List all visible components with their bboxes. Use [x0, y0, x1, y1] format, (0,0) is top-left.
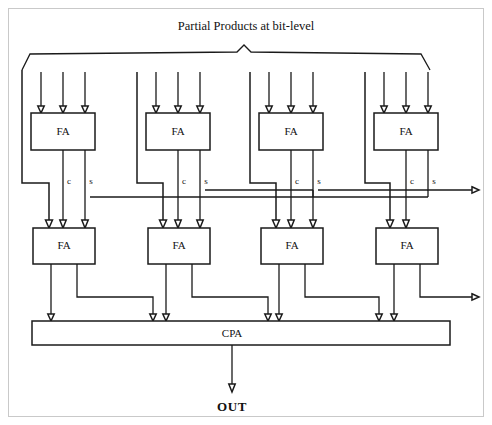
adder-group-1: FA c s FA — [22, 70, 156, 321]
partial-products-brace — [22, 45, 430, 70]
fa-row2-col2-label: FA — [172, 239, 185, 251]
pp-inputs-group-4 — [381, 72, 431, 113]
fa-row1-col3-label: FA — [284, 125, 297, 137]
fa-row2-col4-label: FA — [400, 239, 413, 251]
carry-label-group-3: c — [295, 176, 299, 186]
fa-row2-col3-label: FA — [285, 239, 298, 251]
adder-group-4: FA c s FA — [313, 72, 479, 321]
carry-label-group-1: c — [67, 176, 71, 186]
pp-inputs-group-3 — [266, 72, 316, 113]
figure-border — [9, 9, 484, 417]
sum-label-group-1: s — [89, 176, 93, 186]
cpa-label: CPA — [222, 327, 242, 339]
fa-row1-col2-label: FA — [171, 125, 184, 137]
sum-label-group-3: s — [317, 176, 321, 186]
pp-inputs-group-2 — [153, 72, 203, 113]
multiplier-array-diagram: Partial Products at bit-level FA — [0, 0, 492, 425]
pp-inputs-group-1 — [38, 72, 88, 113]
sum-label-group-2: s — [204, 176, 208, 186]
diagram-canvas: Partial Products at bit-level FA — [0, 0, 492, 425]
fa-row1-col4-label: FA — [399, 125, 412, 137]
fa-row1-col1-label: FA — [56, 125, 69, 137]
sum-label-group-4: s — [432, 176, 436, 186]
carry-label-group-4: c — [410, 176, 414, 186]
output-label: OUT — [217, 399, 247, 414]
carry-label-group-2: c — [182, 176, 186, 186]
fa-row2-col1-label: FA — [57, 239, 70, 251]
figure-title: Partial Products at bit-level — [178, 19, 315, 33]
cpa-output-arrowhead — [229, 384, 235, 392]
